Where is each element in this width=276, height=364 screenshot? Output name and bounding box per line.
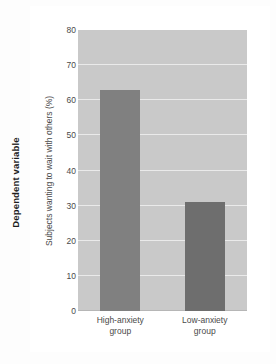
x-axis-category-labels: High-anxietygroupLow-anxietygroup [78,315,247,349]
y-axis-tick-label: 20 [67,236,76,246]
x-axis-category-label-line: High-anxiety [97,315,144,326]
chart-screenshot: Dependent variable Subjects wanting to w… [0,0,276,364]
gridline [78,64,247,65]
y-axis-tick-label: 60 [67,95,76,105]
y-axis-tick-labels: 01020304050607080 [52,30,76,311]
plot-area [78,30,247,311]
y-axis-tick-label: 40 [67,166,76,176]
figure-card: Subjects wanting to wait with others (%)… [30,6,270,352]
y-axis-tick-label: 50 [67,130,76,140]
y-axis-tick-label: 10 [67,271,76,281]
y-axis-tick-label: 30 [67,201,76,211]
bar-low-anxiety-group [185,202,225,311]
x-axis-category-label: High-anxietygroup [97,315,144,336]
dependent-variable-caption-text: Dependent variable [10,137,21,227]
x-axis-category-label-line: group [97,326,144,337]
bar-high-anxiety-group [100,90,140,311]
y-axis-tick-label: 70 [67,60,76,70]
dependent-variable-caption: Dependent variable [0,0,30,364]
x-axis-category-label-line: Low-anxiety [182,315,227,326]
x-axis-category-label: Low-anxietygroup [182,315,227,336]
x-axis-category-label-line: group [182,326,227,337]
y-axis-tick-label: 80 [67,25,76,35]
y-axis-tick-label: 0 [71,306,76,316]
